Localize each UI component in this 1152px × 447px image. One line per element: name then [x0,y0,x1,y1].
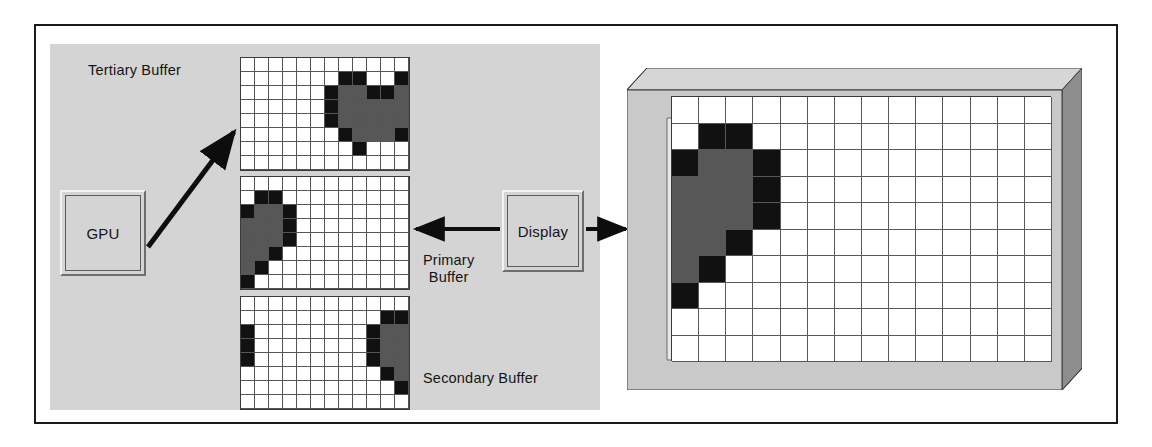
pixel-cell [269,339,283,353]
pixel-cell [943,230,970,257]
pixel-cell [395,233,409,247]
pixel-cell [269,114,283,128]
pixel-cell [753,256,780,283]
pixel-cell [255,311,269,325]
pixel-cell [971,150,998,177]
diagram-canvas: Tertiary Buffer Primary Buffer Secondary… [0,0,1152,447]
pixel-cell [835,336,862,363]
pixel-cell [395,261,409,275]
pixel-cell [1025,336,1052,363]
pixel-cell [255,142,269,156]
pixel-cell [395,219,409,233]
pixel-cell [339,275,353,289]
pixel-cell [381,191,395,205]
pixel-cell [781,336,808,363]
gpu-box-inner: GPU [65,195,141,271]
pixel-cell [381,100,395,114]
pixel-cell [241,247,255,261]
pixel-cell [367,86,381,100]
pixel-cell [862,336,889,363]
display-label: Display [518,223,569,240]
pixel-cell [339,233,353,247]
pixel-cell [325,339,339,353]
pixel-cell [916,97,943,124]
pixel-cell [971,309,998,336]
pixel-cell [269,100,283,114]
pixel-cell [971,97,998,124]
pixel-cell [862,177,889,204]
pixel-cell [353,191,367,205]
pixel-cell [339,395,353,409]
pixel-cell [381,297,395,311]
pixel-cell [395,58,409,72]
pixel-cell [297,219,311,233]
pixel-cell [353,353,367,367]
pixel-cell [353,114,367,128]
pixel-cell [367,205,381,219]
pixel-cell [353,142,367,156]
pixel-cell [367,58,381,72]
pixel-cell [283,86,297,100]
pixel-cell [862,150,889,177]
pixel-cell [726,283,753,310]
pixel-cell [311,114,325,128]
pixel-cell [269,86,283,100]
pixel-cell [889,230,916,257]
pixel-cell [781,309,808,336]
pixel-cell [916,203,943,230]
pixel-cell [835,203,862,230]
pixel-cell [367,297,381,311]
pixel-cell [353,367,367,381]
monitor-screen-grid [671,96,1051,361]
pixel-cell [311,86,325,100]
pixel-cell [753,177,780,204]
pixel-cell [998,150,1025,177]
pixel-cell [297,205,311,219]
pixel-cell [943,256,970,283]
pixel-cell [325,219,339,233]
pixel-cell [241,233,255,247]
pixel-cell [241,114,255,128]
pixel-cell [269,325,283,339]
label-secondary-buffer: Secondary Buffer [423,370,538,387]
pixel-cell [339,381,353,395]
pixel-cell [325,297,339,311]
pixel-cell [862,97,889,124]
pixel-cell [889,177,916,204]
pixel-cell [297,100,311,114]
pixel-cell [283,219,297,233]
buffer-grid-primary [240,176,410,290]
pixel-cell [297,381,311,395]
pixel-cell [395,339,409,353]
pixel-cell [367,339,381,353]
pixel-cell [269,311,283,325]
pixel-cell [241,297,255,311]
pixel-cell [241,156,255,170]
pixel-cell [395,205,409,219]
pixel-cell [339,297,353,311]
pixel-cell [255,339,269,353]
pixel-cell [241,275,255,289]
pixel-cell [753,203,780,230]
pixel-cell [339,219,353,233]
pixel-cell [241,191,255,205]
pixel-cell [381,367,395,381]
pixel-cell [395,367,409,381]
pixel-cell [241,86,255,100]
pixel-cell [255,275,269,289]
pixel-cell [781,124,808,151]
pixel-cell [311,381,325,395]
pixel-cell [325,275,339,289]
pixel-cell [325,353,339,367]
pixel-cell [395,156,409,170]
pixel-cell [971,256,998,283]
pixel-cell [367,233,381,247]
pixel-cell [367,191,381,205]
pixel-cell [269,247,283,261]
display-box[interactable]: Display [502,190,584,272]
pixel-cell [255,261,269,275]
pixel-cell [325,381,339,395]
pixel-cell [726,124,753,151]
gpu-box[interactable]: GPU [60,190,146,276]
pixel-cell [781,256,808,283]
